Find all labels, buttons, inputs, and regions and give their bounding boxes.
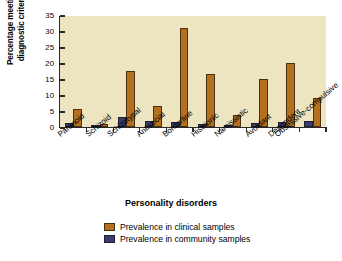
bar-group bbox=[246, 16, 273, 127]
bar-community-obsessive-compulsive[interactable] bbox=[304, 121, 313, 127]
y-axis-title-line-1: Percentage meeting bbox=[6, 0, 15, 65]
legend-swatch bbox=[104, 223, 115, 231]
y-axis-title: Percentage meeting diagnostic criteria bbox=[6, 0, 28, 86]
legend-item[interactable]: Prevalence in community samples bbox=[104, 234, 250, 244]
y-axis-tick-label: 30 bbox=[45, 27, 54, 36]
y-axis-tick-label: 0 bbox=[50, 123, 54, 132]
bar-group bbox=[193, 16, 220, 127]
chart-figure: Percentage meeting diagnostic criteria 0… bbox=[0, 0, 342, 261]
y-axis-tick-label: 25 bbox=[45, 43, 54, 52]
bar-group bbox=[60, 16, 87, 127]
x-axis-tick-labels: ParanoidSchizoidSchizotypalAntisocialBor… bbox=[59, 130, 326, 190]
bar-groups bbox=[60, 16, 326, 127]
legend-item[interactable]: Prevalence in clinical samples bbox=[104, 222, 250, 232]
y-axis-tick-label: 15 bbox=[45, 75, 54, 84]
y-axis-tick-label: 20 bbox=[45, 59, 54, 68]
y-axis-title-line-2: diagnostic criteria bbox=[17, 0, 26, 61]
y-axis-tick-label: 10 bbox=[45, 91, 54, 100]
bar-group bbox=[140, 16, 167, 127]
y-axis-tick-label: 5 bbox=[50, 107, 54, 116]
x-axis-title: Personality disorders bbox=[0, 198, 342, 208]
legend-swatch bbox=[104, 235, 115, 243]
plot-area: 05101520253035 bbox=[59, 16, 326, 128]
chart-legend: Prevalence in clinical samplesPrevalence… bbox=[104, 222, 250, 246]
y-axis-tick-label: 35 bbox=[45, 11, 54, 20]
bar-group bbox=[87, 16, 114, 127]
legend-label: Prevalence in community samples bbox=[120, 234, 250, 244]
legend-label: Prevalence in clinical samples bbox=[120, 222, 235, 232]
